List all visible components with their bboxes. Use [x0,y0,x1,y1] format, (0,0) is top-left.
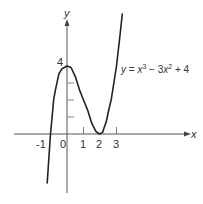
eq-y: y [121,64,126,75]
function-plot [0,0,203,204]
y-axis-arrow-icon [65,19,70,26]
eq-plus-term: + 4 [175,64,189,75]
x-tick-label-2: 2 [96,139,102,150]
x-tick-label-neg1: -1 [36,139,46,150]
x-tick-label-0: 0 [60,139,66,150]
x-tick-label-3: 3 [113,139,119,150]
y-tick-label-4: 4 [57,57,63,68]
eq-exp-2: 2 [168,63,172,70]
y-axis-label: y [64,8,70,19]
function-curve [47,14,122,183]
x-axis-label: x [191,129,197,140]
x-tick-label-1: 1 [80,139,86,150]
x-axis-arrow-icon [184,132,191,137]
eq-exp-3: 3 [142,63,146,70]
eq-minus-term: − 3 [149,64,163,75]
eq-equals: = [129,64,135,75]
equation-label: y = x3 − 3x2 + 4 [121,63,189,75]
